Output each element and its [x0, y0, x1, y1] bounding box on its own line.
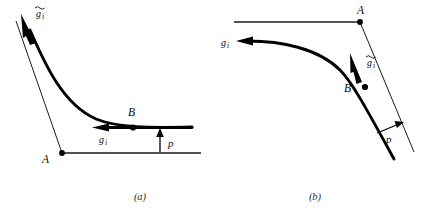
panel-b-label-g: g	[221, 37, 226, 48]
panel-b-label-g-tilde-group: g i	[366, 56, 376, 70]
panel-a-label-g-subscript: i	[105, 138, 107, 147]
panel-a-label-g-group: g i	[99, 134, 107, 147]
panel-a-thick-curve	[30, 30, 192, 127]
panel-b-group: A B g i g i p (b)	[221, 4, 414, 203]
figure-svg: A B g i g i p (a)	[0, 0, 429, 215]
panel-a-g-arrowhead	[92, 124, 109, 132]
panel-b-label-g-tilde: g	[367, 57, 372, 68]
panel-b-p-arrow-shaft	[377, 124, 399, 133]
panel-b-label-g-group: g i	[221, 37, 229, 50]
panel-b-point-b-dot	[362, 84, 368, 90]
panel-a-label-g: g	[99, 134, 104, 145]
panel-b-point-a-dot	[357, 19, 363, 25]
panel-a-label-g-tilde: g	[36, 8, 41, 19]
panel-b-g-tilde-arrowhead	[350, 53, 362, 84]
panel-a-label-g-tilde-group: g i	[35, 7, 45, 21]
panel-a-point-b-dot	[130, 124, 136, 130]
panel-a-label-point-b: B	[128, 106, 135, 118]
figure-container: A B g i g i p (a)	[0, 0, 429, 215]
panel-a-caption: (a)	[134, 191, 147, 203]
panel-b-caption: (b)	[309, 191, 322, 203]
panel-a-p-arrowhead	[156, 128, 164, 137]
panel-b-label-point-a: A	[356, 4, 365, 16]
panel-a-label-g-tilde-subscript: i	[42, 12, 44, 21]
panel-b-thick-curve	[248, 41, 394, 159]
panel-a-point-a-dot	[59, 150, 65, 156]
panel-b-g-arrowhead	[236, 37, 253, 46]
panel-a-label-point-a: A	[41, 153, 50, 165]
panel-a-label-pressure: p	[167, 137, 174, 149]
panel-b-label-g-subscript: i	[227, 41, 229, 50]
panel-b-label-point-b: B	[344, 82, 351, 94]
panel-b-label-pressure: p	[385, 133, 392, 145]
panel-a-thin-guide-line	[16, 21, 62, 153]
panel-a-group: A B g i g i p (a)	[16, 7, 201, 203]
panel-b-label-g-tilde-subscript: i	[373, 61, 375, 70]
